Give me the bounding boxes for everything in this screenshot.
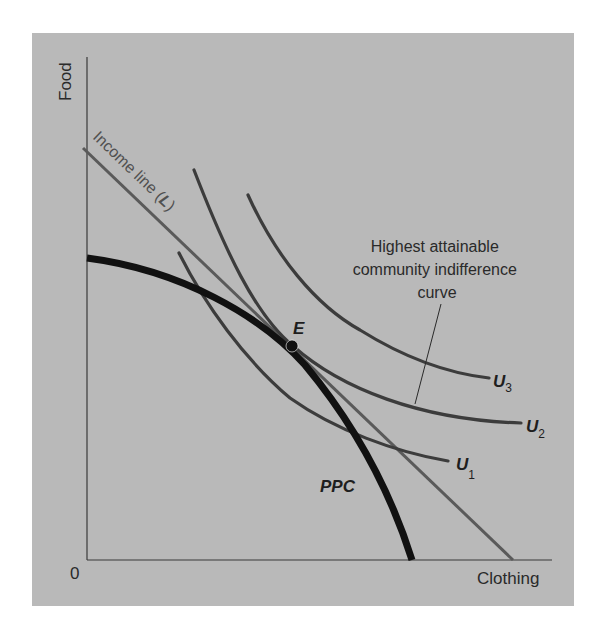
trade-equilibrium-diagram: Food Clothing 0 Income line (L) E U3 U2 … — [0, 0, 602, 639]
x-axis-label: Clothing — [477, 569, 539, 588]
y-axis-label: Food — [56, 62, 75, 101]
ppc-label: PPC — [320, 477, 356, 496]
equilibrium-point-label: E — [293, 319, 305, 338]
origin-label: 0 — [70, 564, 79, 583]
equilibrium-point-marker — [286, 340, 298, 352]
